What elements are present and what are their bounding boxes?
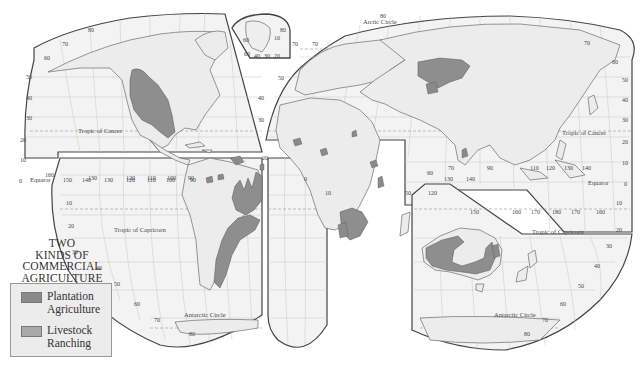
svg-text:10: 10 [325, 190, 331, 196]
label-equator-east: Equator [588, 179, 609, 186]
svg-text:50: 50 [405, 190, 411, 196]
land-antarctica-west [175, 319, 258, 334]
svg-text:40: 40 [26, 95, 32, 101]
svg-text:90: 90 [188, 175, 194, 181]
svg-text:40: 40 [258, 95, 264, 101]
svg-text:130: 130 [564, 165, 573, 171]
svg-text:20: 20 [274, 53, 280, 59]
svg-text:40: 40 [254, 53, 260, 59]
svg-text:70: 70 [154, 317, 160, 323]
svg-text:30: 30 [606, 243, 612, 249]
legend-label-line1: Livestock [47, 324, 92, 337]
svg-text:30: 30 [26, 115, 32, 121]
svg-text:70: 70 [62, 41, 68, 47]
svg-text:60: 60 [243, 37, 249, 43]
svg-text:80: 80 [88, 27, 94, 33]
svg-text:70: 70 [584, 40, 590, 46]
svg-text:80: 80 [189, 331, 195, 337]
svg-text:20: 20 [20, 137, 26, 143]
svg-text:150: 150 [470, 209, 479, 215]
label-antarctic-circle-west: Antarctic Circle [184, 311, 226, 318]
greenland-inset [232, 14, 290, 58]
svg-text:120: 120 [126, 175, 135, 181]
legend: Plantation Agriculture Livestock Ranchin… [10, 283, 112, 357]
svg-text:10: 10 [274, 35, 280, 41]
svg-text:50: 50 [26, 74, 32, 80]
svg-text:10: 10 [20, 157, 26, 163]
ranching-swatch [21, 326, 42, 337]
svg-text:20: 20 [622, 139, 628, 145]
svg-text:160: 160 [512, 209, 521, 215]
legend-item-ranching: Livestock Ranching [11, 322, 111, 354]
svg-text:150: 150 [63, 177, 72, 183]
svg-text:10: 10 [622, 160, 628, 166]
svg-text:160: 160 [596, 209, 605, 215]
svg-text:120: 120 [546, 165, 555, 171]
svg-text:20: 20 [262, 155, 268, 161]
svg-text:60: 60 [427, 170, 433, 176]
legend-item-plantation: Plantation Agriculture [11, 288, 111, 320]
svg-text:60: 60 [612, 59, 618, 65]
svg-text:110: 110 [147, 175, 156, 181]
svg-text:70: 70 [292, 41, 298, 47]
svg-text:40: 40 [594, 263, 600, 269]
svg-text:30: 30 [264, 53, 270, 59]
svg-text:50: 50 [622, 77, 628, 83]
svg-text:10: 10 [66, 200, 72, 206]
label-tropic-capricorn-east: Tropic of Capricorn [532, 228, 585, 235]
svg-text:60: 60 [244, 51, 250, 57]
legend-title: TWO KINDS OF COMMERCIAL AGRICULTURE [8, 238, 116, 284]
svg-text:20: 20 [68, 223, 74, 229]
svg-text:20: 20 [616, 227, 622, 233]
svg-text:110: 110 [530, 165, 539, 171]
svg-text:140: 140 [466, 176, 475, 182]
svg-text:170: 170 [571, 209, 580, 215]
svg-text:140: 140 [582, 165, 591, 171]
svg-text:130: 130 [444, 176, 453, 182]
svg-text:130: 130 [88, 175, 97, 181]
svg-text:80: 80 [380, 13, 386, 19]
svg-text:0: 0 [624, 181, 627, 187]
label-tropic-cancer-west: Tropic of Cancer [78, 127, 123, 134]
label-tropic-capricorn-west: Tropic of Capricorn [114, 226, 167, 233]
svg-text:70: 70 [448, 165, 454, 171]
svg-text:100: 100 [167, 175, 176, 181]
land-antarctica-east [420, 316, 560, 343]
svg-text:80: 80 [524, 331, 530, 337]
svg-text:160: 160 [45, 172, 54, 178]
svg-text:0: 0 [304, 176, 307, 182]
legend-label-line2: Ranching [47, 337, 92, 350]
land-madagascar [400, 212, 410, 236]
svg-text:170: 170 [531, 209, 540, 215]
svg-text:60: 60 [134, 301, 140, 307]
svg-text:130: 130 [104, 177, 113, 183]
svg-text:120: 120 [428, 190, 437, 196]
svg-text:70: 70 [542, 317, 548, 323]
legend-label-line1: Plantation [47, 290, 100, 303]
label-arctic-circle: Arctic Circle [363, 18, 397, 25]
svg-text:50: 50 [278, 75, 284, 81]
svg-text:60: 60 [44, 55, 50, 61]
svg-text:40: 40 [622, 97, 628, 103]
svg-text:30: 30 [622, 117, 628, 123]
svg-text:180: 180 [552, 209, 561, 215]
svg-text:50: 50 [578, 283, 584, 289]
legend-label-line2: Agriculture [47, 303, 100, 316]
label-tropic-cancer-east: Tropic of Cancer [562, 129, 607, 136]
plantation-swatch [21, 292, 42, 303]
label-antarctic-circle-east: Antarctic Circle [494, 311, 536, 318]
svg-text:70: 70 [312, 41, 318, 47]
svg-text:60: 60 [560, 301, 566, 307]
svg-text:80: 80 [280, 27, 286, 33]
svg-text:90: 90 [487, 165, 493, 171]
svg-text:0: 0 [19, 178, 22, 184]
svg-text:30: 30 [258, 117, 264, 123]
plantation-east-africa [378, 176, 384, 188]
svg-text:10: 10 [616, 200, 622, 206]
